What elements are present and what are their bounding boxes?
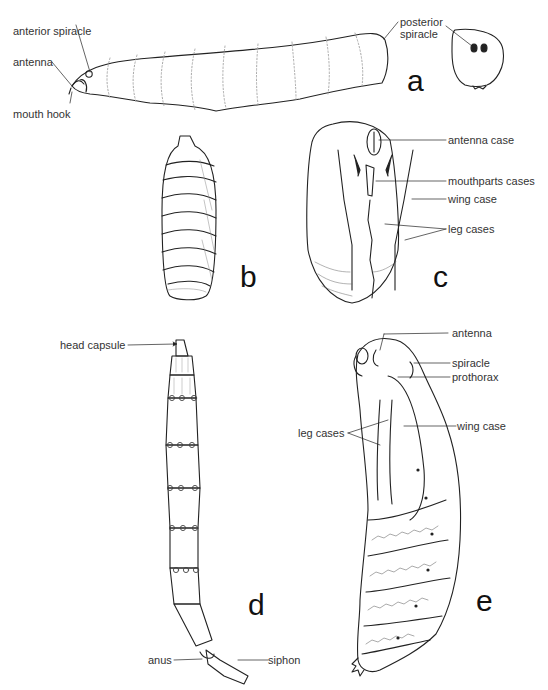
label-spiracle-e: spiracle <box>452 357 490 369</box>
label-head-capsule: head capsule <box>60 339 125 351</box>
puparium-drawing <box>162 136 216 300</box>
label-antenna-case: antenna case <box>448 134 514 146</box>
label-leg-cases-c: leg cases <box>448 223 494 235</box>
pupa-ventral-drawing <box>307 122 413 303</box>
label-anus: anus <box>148 654 172 666</box>
label-antenna-a: antenna <box>13 56 53 68</box>
posterior-end-view-drawing <box>446 26 504 89</box>
label-prothorax: prothorax <box>452 371 498 383</box>
panel-letter-d: d <box>248 590 265 620</box>
panel-letter-a: a <box>407 66 424 96</box>
pupa-lateral-drawing <box>352 339 461 676</box>
panel-letter-c: c <box>433 262 448 292</box>
label-siphon: siphon <box>268 654 300 666</box>
label-mouthparts-cases: mouthparts cases <box>448 175 535 187</box>
larva-lateral-drawing <box>69 33 388 111</box>
label-posterior-spiracle-line1: posterior <box>400 16 443 28</box>
label-posterior-spiracle-line2: spiracle <box>400 28 438 40</box>
label-anterior-spiracle: anterior spiracle <box>13 25 91 37</box>
leader-posterior-spiracle <box>384 22 398 39</box>
aquatic-larva-drawing <box>166 340 248 684</box>
label-leg-cases-e: leg cases <box>298 427 344 439</box>
panel-letter-e: e <box>476 586 493 616</box>
panel-letter-b: b <box>240 262 257 292</box>
label-mouth-hook: mouth hook <box>13 108 70 120</box>
label-wing-case-c: wing case <box>448 193 497 205</box>
label-antenna-e: antenna <box>452 327 492 339</box>
label-wing-case-e: wing case <box>457 420 506 432</box>
